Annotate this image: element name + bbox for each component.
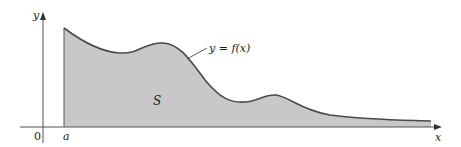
curve-label-leader — [187, 48, 207, 59]
y-axis-label: y — [32, 9, 40, 22]
region-label: S — [153, 94, 161, 108]
x-axis-label: x — [435, 131, 442, 144]
area-under-curve-figure: y x 0 a S y = f(x) — [0, 0, 461, 147]
origin-label: 0 — [34, 130, 41, 143]
curve-label: y = f(x) — [208, 42, 250, 55]
y-axis-arrow-icon — [40, 12, 46, 20]
lower-bound-label: a — [63, 130, 70, 143]
x-axis-arrow-icon — [434, 124, 442, 130]
